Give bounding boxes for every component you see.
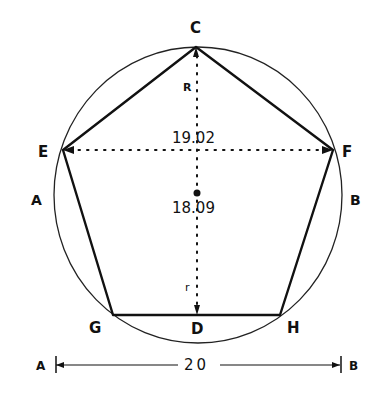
dim-label-a: A: [36, 359, 46, 373]
label-d: D: [191, 320, 203, 338]
label-inradius-r: r: [185, 281, 190, 294]
arrowhead-d-icon: [194, 305, 200, 315]
dim-label-b: B: [349, 359, 358, 373]
center-point: [194, 190, 201, 197]
label-a-side: A: [31, 192, 42, 208]
dim-value: 20: [184, 356, 209, 374]
label-f: F: [342, 143, 352, 161]
label-height-cd: 18.09: [172, 199, 215, 217]
label-h: H: [287, 319, 300, 337]
label-c: C: [190, 19, 201, 37]
label-e: E: [38, 143, 48, 161]
dim-arrow-right-icon: [332, 362, 340, 368]
pentagon-diagram: C E F G H D A B 19.02 18.09 R r A 20 B: [0, 0, 382, 399]
label-diagonal-ef: 19.02: [172, 129, 215, 147]
dim-arrow-left-icon: [56, 362, 64, 368]
pentagon: [63, 47, 333, 315]
label-radius-r: R: [183, 81, 192, 94]
label-b-side: B: [350, 192, 361, 208]
label-g: G: [89, 319, 101, 337]
